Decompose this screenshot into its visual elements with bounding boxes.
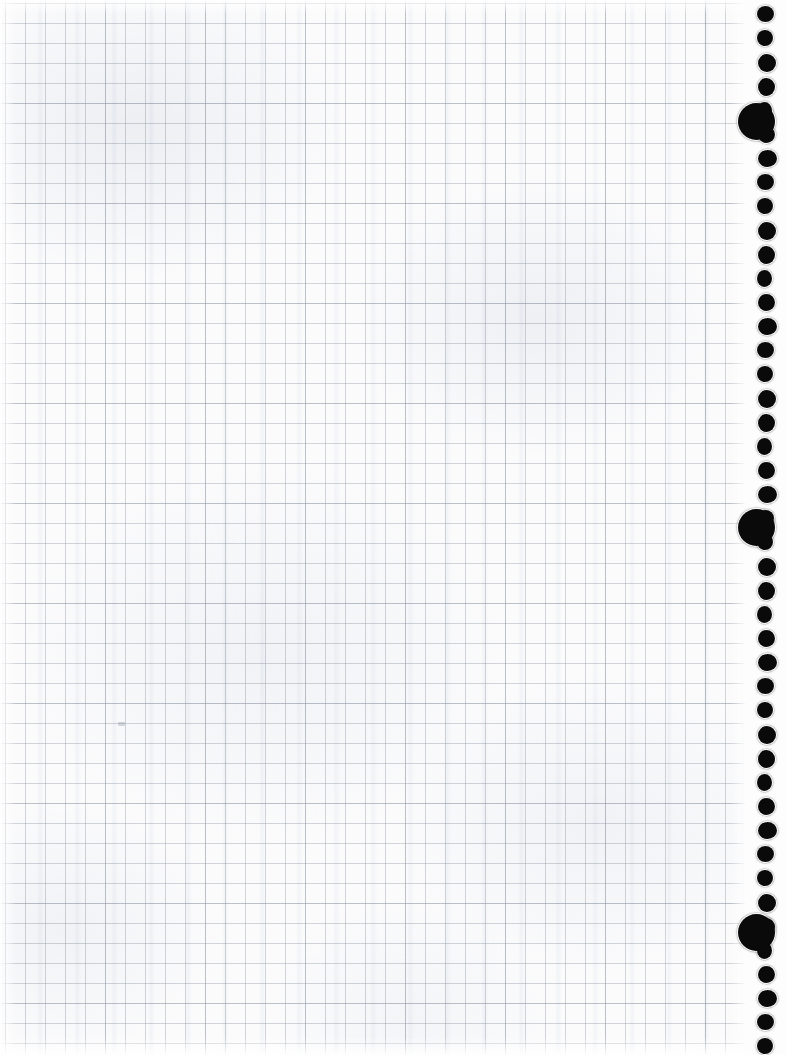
punch-hole-small xyxy=(758,822,777,839)
punch-hole-small xyxy=(757,678,774,694)
binding-hole-large xyxy=(738,509,775,546)
punch-hole-small xyxy=(758,78,775,96)
punch-hole-small xyxy=(758,150,777,167)
punch-hole-small xyxy=(758,558,776,576)
punch-hole-small xyxy=(758,222,776,240)
punch-hole-small xyxy=(757,366,773,382)
punch-hole-small xyxy=(757,846,774,862)
punch-hole-small xyxy=(758,390,776,408)
scanned-page xyxy=(0,0,786,1055)
punch-hole-small xyxy=(758,750,775,768)
punch-hole-small xyxy=(757,1014,774,1030)
punch-hole-small xyxy=(757,870,773,886)
punch-hole-small xyxy=(758,726,776,744)
punch-hole-small xyxy=(758,630,775,647)
punch-hole-small xyxy=(758,54,776,72)
punch-hole-small xyxy=(758,462,775,479)
punch-hole-small xyxy=(757,174,774,190)
punch-hole-small xyxy=(758,798,775,815)
punch-hole-small xyxy=(757,606,772,623)
punch-hole-small xyxy=(758,966,775,983)
punch-hole-small xyxy=(757,702,773,718)
binding-hole-large xyxy=(738,103,775,140)
punch-hole-small xyxy=(758,318,777,335)
graph-paper-body xyxy=(0,0,745,1055)
punch-hole-small xyxy=(757,774,772,791)
grid-accent-lines xyxy=(0,0,745,1055)
punch-hole-small xyxy=(758,582,775,600)
punch-hole-small xyxy=(758,246,775,264)
punch-hole-small xyxy=(758,294,775,311)
punch-hole-small xyxy=(758,990,777,1007)
punch-hole-small xyxy=(757,6,774,22)
punch-hole-small xyxy=(757,438,772,455)
punch-hole-small xyxy=(757,342,774,358)
punch-hole-small xyxy=(758,414,775,432)
punch-hole-small xyxy=(757,270,772,287)
punch-hole-small xyxy=(758,894,776,912)
punch-hole-small xyxy=(758,486,777,503)
binding-hole-large xyxy=(738,914,775,951)
punch-hole-small xyxy=(757,198,773,214)
punch-hole-small xyxy=(757,30,773,46)
pencil-speck xyxy=(118,722,125,726)
punch-hole-small xyxy=(757,1038,773,1054)
punch-hole-small xyxy=(758,654,777,671)
